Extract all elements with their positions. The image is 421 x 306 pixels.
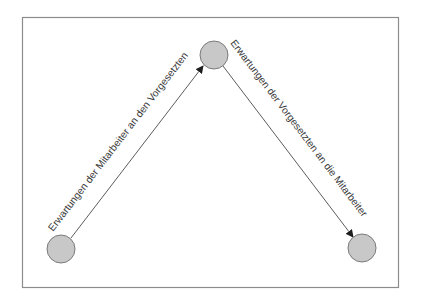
expectations-diagram: Erwartungen der Mitarbeiter an den Vorge… bbox=[0, 0, 421, 306]
node-employees-right bbox=[348, 234, 376, 262]
node-supervisor-top bbox=[200, 41, 228, 69]
node-employees-left bbox=[47, 235, 75, 263]
